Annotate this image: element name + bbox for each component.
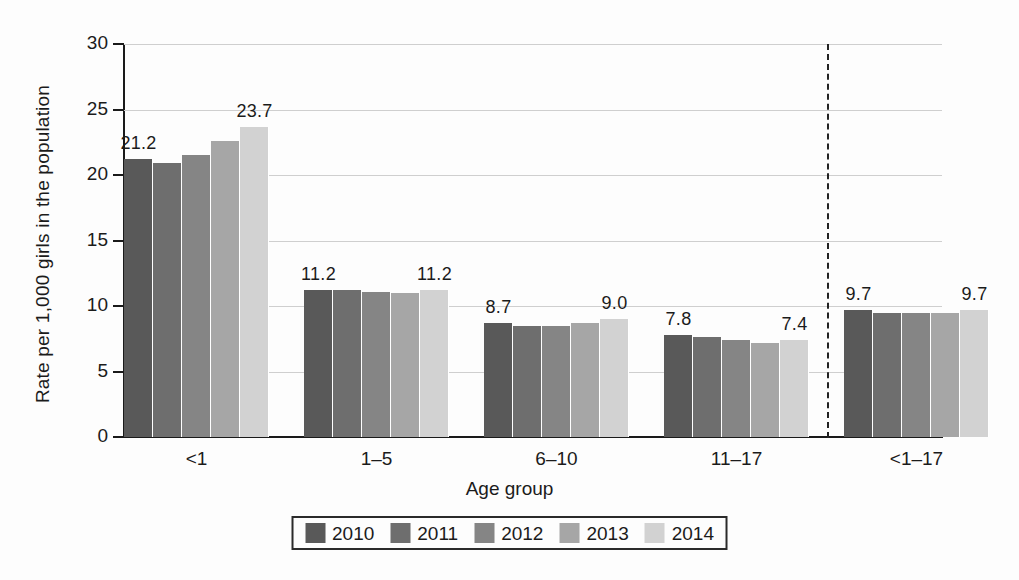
bar	[693, 337, 722, 437]
x-axis-group-label: 1–5	[361, 448, 393, 470]
bar	[873, 313, 902, 437]
x-axis-title: Age group	[0, 478, 1019, 500]
y-axis-tick	[113, 371, 124, 373]
bar	[362, 292, 391, 437]
legend-item[interactable]: 2013	[559, 523, 628, 543]
bar	[153, 163, 182, 437]
legend-item[interactable]: 2010	[305, 523, 374, 543]
bar	[931, 313, 960, 437]
bar-value-label: 11.2	[295, 264, 343, 285]
bar	[542, 326, 571, 437]
legend-swatch-icon	[305, 523, 325, 543]
bar-value-label: 8.7	[475, 297, 523, 318]
bar-value-label: 7.8	[655, 309, 703, 330]
x-axis-group-label: 11–17	[711, 448, 762, 470]
y-axis-tick	[113, 436, 124, 438]
gridline	[124, 437, 942, 438]
legend-item[interactable]: 2014	[645, 523, 714, 543]
y-axis-tick-label: 0	[50, 425, 108, 447]
bar	[664, 335, 693, 437]
y-axis-tick-label: 30	[50, 32, 108, 54]
x-axis-group-label: <1–17	[890, 448, 943, 470]
bar	[960, 310, 989, 437]
legend: 20102011201220132014	[291, 516, 728, 550]
bar-value-label: 11.2	[411, 264, 459, 285]
bar	[391, 293, 420, 437]
y-axis-tick-label: 20	[50, 163, 108, 185]
bar-value-label: 9.0	[591, 293, 639, 314]
bar	[600, 319, 629, 437]
bar	[484, 323, 513, 437]
bar-chart-figure: Rate per 1,000 girls in the population 0…	[0, 0, 1019, 580]
legend-item[interactable]: 2011	[390, 523, 458, 543]
bar	[420, 290, 449, 437]
y-axis-tick	[113, 109, 124, 111]
bar	[333, 290, 362, 437]
bar	[780, 340, 809, 437]
bar	[751, 343, 780, 437]
bar	[124, 159, 153, 437]
legend-label: 2014	[672, 524, 714, 543]
y-axis-tick-label: 10	[50, 294, 108, 316]
legend-swatch-icon	[559, 523, 579, 543]
bar	[844, 310, 873, 437]
bar-value-label: 21.2	[115, 133, 163, 154]
bar	[211, 141, 240, 437]
category-divider-dashed-line	[827, 44, 829, 438]
y-axis-tick	[113, 174, 124, 176]
y-axis-tick	[113, 305, 124, 307]
bar	[240, 127, 269, 437]
bar-value-label: 9.7	[951, 284, 999, 305]
bar	[513, 326, 542, 437]
bar	[182, 155, 211, 437]
legend-label: 2010	[332, 524, 374, 543]
x-axis-group-label: <1	[186, 448, 208, 470]
y-axis-tick-label: 15	[50, 229, 108, 251]
legend-label: 2012	[501, 524, 543, 543]
y-axis-tick	[113, 43, 124, 45]
y-axis-tick	[113, 240, 124, 242]
bar-value-label: 23.7	[231, 101, 279, 122]
y-axis-tick-label: 25	[50, 98, 108, 120]
legend-label: 2011	[417, 524, 458, 543]
bar-value-label: 7.4	[771, 314, 819, 335]
bar	[722, 340, 751, 437]
bar	[902, 313, 931, 437]
x-axis-group-label: 6–10	[535, 448, 577, 470]
legend-swatch-icon	[390, 523, 410, 543]
legend-label: 2013	[586, 524, 628, 543]
legend-swatch-icon	[474, 523, 494, 543]
legend-item[interactable]: 2012	[474, 523, 543, 543]
legend-swatch-icon	[645, 523, 665, 543]
bar	[304, 290, 333, 437]
bar-value-label: 9.7	[835, 284, 883, 305]
y-axis-tick-label: 5	[50, 360, 108, 382]
bar	[571, 323, 600, 437]
